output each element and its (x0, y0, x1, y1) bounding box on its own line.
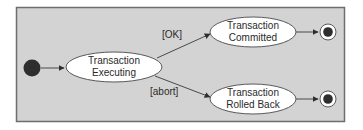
final-state-rollback (320, 91, 336, 107)
state-label-line1: Transaction (88, 55, 140, 66)
state-diagram: [OK] [abort] Transaction Executing Trans… (0, 0, 363, 130)
state-label-line1: Transaction (227, 20, 279, 31)
state-label-line1: Transaction (227, 87, 279, 98)
diagram-frame (17, 8, 345, 122)
state-label-line2: Executing (92, 67, 136, 78)
guard-label-abort: [abort] (150, 86, 179, 97)
state-label-line2: Rolled Back (226, 99, 280, 110)
state-transaction-committed: Transaction Committed (210, 17, 296, 47)
state-transaction-executing: Transaction Executing (66, 52, 162, 82)
final-state-commit (320, 24, 336, 40)
state-transaction-rolled-back: Transaction Rolled Back (210, 84, 296, 114)
state-label-line2: Committed (229, 32, 277, 43)
guard-label-ok: [OK] (162, 29, 182, 40)
initial-state-node (24, 60, 41, 77)
